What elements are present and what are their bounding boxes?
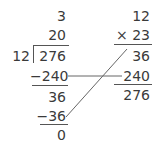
rule-2 xyxy=(40,124,68,125)
partial-36: 36 xyxy=(126,48,150,64)
subtract-36: −36 xyxy=(32,108,66,124)
remainder-36: 36 xyxy=(42,89,66,105)
rule-1 xyxy=(32,85,68,86)
quotient-part-3: 3 xyxy=(50,8,66,24)
quotient-part-20: 20 xyxy=(42,27,66,43)
partial-240: 240 xyxy=(118,68,150,84)
product: 276 xyxy=(118,87,150,103)
divisor: 12 xyxy=(8,48,30,64)
mult-rule-1 xyxy=(114,44,152,45)
remainder-0: 0 xyxy=(50,127,66,143)
subtract-240: −240 xyxy=(30,68,66,84)
dividend: 276 xyxy=(38,48,66,64)
division-bar xyxy=(34,45,69,46)
division-bracket xyxy=(33,45,34,63)
multiplicand: 12 xyxy=(130,8,150,24)
multiplier: × 23 xyxy=(110,27,150,43)
mult-rule-2 xyxy=(114,84,152,85)
